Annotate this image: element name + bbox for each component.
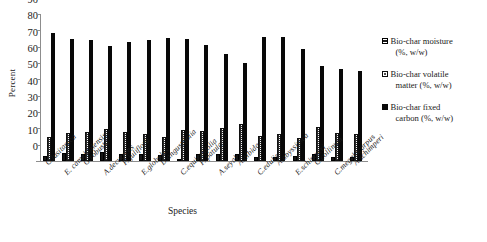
bar-fixed xyxy=(243,63,247,161)
bar-series-container xyxy=(41,14,368,161)
y-axis-tickmark xyxy=(36,79,40,80)
legend-swatch-volatile xyxy=(382,71,388,77)
y-axis-tickmark xyxy=(36,63,40,64)
legend-swatch-fixed xyxy=(382,104,388,110)
legend-label-line1: Bio-char volatile xyxy=(391,69,449,79)
x-axis-category-labels: C.lusitanicaE. camaldulensisG.robustaA.d… xyxy=(41,162,371,222)
bar-fixed xyxy=(339,69,343,161)
y-axis-tickmark xyxy=(36,47,40,48)
bar-fixed xyxy=(281,37,285,161)
y-axis-tick: 30 xyxy=(16,94,38,102)
y-axis-tick: 40 xyxy=(16,78,38,86)
y-axis-tick-labels: 0102030405060708090 xyxy=(16,0,38,160)
bar-group xyxy=(119,14,136,161)
y-axis-tick: 70 xyxy=(16,29,38,37)
y-axis-tick: 90 xyxy=(16,0,38,4)
y-axis-tick: 60 xyxy=(16,45,38,53)
legend-label-line2: matter (%, w/w) xyxy=(391,80,487,91)
y-axis-tickmark xyxy=(36,112,40,113)
bar-fixed xyxy=(51,33,55,161)
y-axis-tick: 50 xyxy=(16,61,38,69)
y-axis-tickmark xyxy=(36,128,40,129)
bar-group xyxy=(312,14,329,161)
y-axis-tickmark xyxy=(36,14,40,15)
y-axis-tick: 80 xyxy=(16,12,38,20)
bar-fixed xyxy=(224,54,228,161)
bar-group xyxy=(216,14,233,161)
legend-label-line1: Bio-char fixed xyxy=(391,102,441,112)
y-axis-tickmark xyxy=(36,96,40,97)
x-axis-title: Species xyxy=(168,206,197,216)
y-axis-tickmark xyxy=(36,30,40,31)
bar-fixed xyxy=(166,38,170,161)
legend-label: Bio-char fixedcarbon (%, w/w) xyxy=(391,102,487,123)
legend-item: Bio-char volatilematter (%, w/w) xyxy=(382,69,487,90)
y-axis-tickmark xyxy=(36,161,40,162)
legend-label-line2: (%, w/w) xyxy=(391,47,487,58)
legend-swatch-moisture xyxy=(382,38,388,44)
bar-group xyxy=(43,14,60,161)
legend-label-line1: Bio-char moisture xyxy=(391,36,453,46)
legend-item: Bio-char moisture(%, w/w) xyxy=(382,36,487,57)
chart-figure: Percent 0102030405060708090 C.lusitanica… xyxy=(0,0,487,242)
bar-group xyxy=(273,14,290,161)
legend-label: Bio-char moisture(%, w/w) xyxy=(391,36,487,57)
y-axis-tick: 20 xyxy=(16,110,38,118)
bar-group xyxy=(158,14,175,161)
bar-group xyxy=(235,14,252,161)
y-axis-tick: 10 xyxy=(16,127,38,135)
bar-group xyxy=(254,14,271,161)
legend-label-line2: carbon (%, w/w) xyxy=(391,113,487,124)
plot-area: Percent 0102030405060708090 C.lusitanica… xyxy=(0,0,487,242)
legend-item: Bio-char fixedcarbon (%, w/w) xyxy=(382,102,487,123)
bar-fixed xyxy=(262,37,266,161)
chart-legend: Bio-char moisture(%, w/w)Bio-char volati… xyxy=(382,36,487,135)
y-axis-tick: 0 xyxy=(16,143,38,151)
legend-label: Bio-char volatilematter (%, w/w) xyxy=(391,69,487,90)
y-axis-tickmark xyxy=(36,145,40,146)
